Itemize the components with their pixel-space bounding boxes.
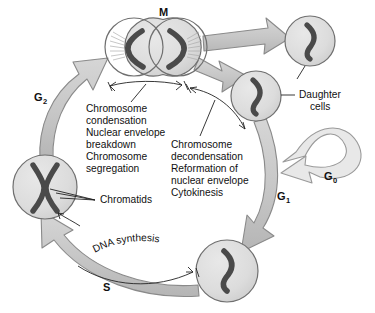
m-event-line-6: segregation <box>86 163 139 174</box>
telo-event-line-2: decondensation <box>171 151 243 162</box>
arrow-g0-loop <box>281 128 361 183</box>
cell-m-phase <box>105 18 207 76</box>
arrow-s <box>41 211 199 297</box>
phase-label-g1-text: G <box>277 190 286 202</box>
phase-label-m-text: M <box>159 6 168 18</box>
dna-synthesis-label: DNA synthesis <box>91 232 161 255</box>
chromatids-label: Chromatids <box>100 194 152 205</box>
m-event-line-4: breakdown <box>86 139 136 150</box>
cell-daughter-top <box>285 16 335 66</box>
cell-g1-s <box>196 240 258 302</box>
cell-daughter-lower <box>231 71 281 121</box>
m-event-line-1: Chromosome <box>86 103 147 114</box>
telo-event-line-3: Reformation of <box>171 163 238 174</box>
telo-event-line-1: Chromosome <box>171 139 232 150</box>
phase-label-g1-sub: 1 <box>286 196 290 205</box>
dna-synthesis-text: DNA synthesis <box>91 232 161 255</box>
span-arrow-m-events <box>108 81 188 102</box>
m-phase-events-block: Chromosome condensation Nuclear envelope… <box>86 103 166 174</box>
telophase-events-block: Chromosome decondensation Reformation of… <box>171 139 249 198</box>
phase-label-g0-text: G <box>324 170 333 182</box>
chromatids-text: Chromatids <box>100 194 152 205</box>
m-event-line-2: condensation <box>86 115 147 126</box>
phase-label-s: S <box>103 281 110 293</box>
phase-label-g2: G 2 <box>34 91 47 106</box>
cell-cycle-diagram: M G 2 G 1 G 0 S Chromosome condensation … <box>0 0 375 313</box>
daughter-cells-line-2: cells <box>310 101 330 112</box>
diagram-canvas: M G 2 G 1 G 0 S Chromosome condensation … <box>0 0 375 313</box>
m-event-line-3: Nuclear envelope <box>86 127 166 138</box>
phase-label-g2-text: G <box>34 91 43 103</box>
spindle-fibers-left <box>110 32 125 60</box>
m-event-line-5: Chromosome <box>86 151 147 162</box>
phase-label-m: M <box>159 6 168 18</box>
phase-label-g0-sub: 0 <box>333 176 337 185</box>
daughter-cells-label: Daughter cells <box>299 89 342 112</box>
telo-event-line-5: Cytokinesis <box>171 187 223 198</box>
telo-event-line-4: nuclear envelope <box>171 175 249 186</box>
cell-g2 <box>13 155 77 219</box>
arrow-m-to-daughter-top <box>203 18 290 54</box>
phase-label-g2-sub: 2 <box>43 97 47 106</box>
phase-label-g1: G 1 <box>277 190 290 205</box>
daughter-cells-line-1: Daughter <box>299 89 342 100</box>
phase-label-s-text: S <box>103 281 110 293</box>
